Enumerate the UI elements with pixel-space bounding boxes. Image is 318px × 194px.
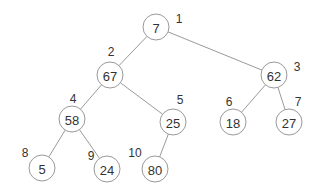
tree-edge (278, 87, 285, 109)
node-value: 67 (103, 69, 117, 84)
tree-node: 25 (160, 109, 186, 135)
tree-edges (49, 32, 285, 158)
node-index-label: 2 (108, 45, 115, 59)
tree-node: 80 (142, 156, 168, 182)
tree-edge (120, 83, 162, 114)
node-value: 25 (166, 116, 180, 131)
tree-node: 18 (220, 109, 246, 135)
tree-edge (242, 85, 266, 112)
heap-tree-diagram: 767625825182752480 12345678910 (0, 0, 318, 194)
tree-edge (119, 36, 147, 65)
node-value: 80 (148, 163, 162, 178)
node-value: 62 (267, 69, 281, 84)
node-index-label: 4 (70, 92, 77, 106)
node-index-label: 6 (226, 95, 233, 109)
tree-edge (160, 134, 169, 157)
tree-edge (49, 130, 65, 157)
tree-node: 58 (59, 106, 85, 132)
node-value: 7 (152, 21, 159, 36)
node-index-label: 10 (128, 146, 142, 160)
tree-node: 5 (29, 155, 55, 181)
node-index-label: 3 (294, 60, 301, 74)
node-index-label: 5 (177, 93, 184, 107)
tree-node: 27 (276, 109, 302, 135)
node-index-label: 1 (176, 12, 183, 26)
tree-edge (168, 32, 262, 70)
node-value: 24 (100, 163, 114, 178)
node-index-label: 7 (295, 95, 302, 109)
node-index-label: 8 (22, 146, 29, 160)
node-value: 5 (38, 162, 45, 177)
tree-node: 62 (261, 62, 287, 88)
node-value: 27 (282, 116, 296, 131)
tree-edge (80, 85, 101, 109)
node-index-label: 9 (88, 149, 95, 163)
tree-node: 7 (143, 14, 169, 40)
node-value: 18 (226, 116, 240, 131)
tree-node: 67 (97, 62, 123, 88)
node-value: 58 (65, 113, 79, 128)
tree-node: 24 (94, 156, 120, 182)
